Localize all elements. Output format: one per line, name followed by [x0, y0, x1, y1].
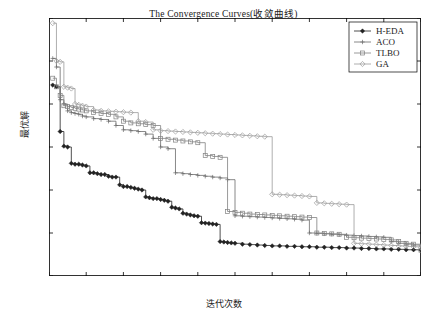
- plot-area: 0102030405060708090100500100015002000250…: [49, 18, 421, 276]
- legend-label: GA: [376, 59, 389, 69]
- legend-label: ACO: [376, 37, 396, 47]
- chart-svg: 0102030405060708090100500100015002000250…: [49, 18, 421, 276]
- series-h-eda: [51, 83, 421, 253]
- y-axis-label: 最优解: [18, 95, 31, 155]
- legend: H-EDAACOTLBOGA: [349, 22, 417, 72]
- legend-label: TLBO: [376, 48, 400, 58]
- series-tlbo: [51, 76, 421, 252]
- legend-label: H-EDA: [376, 26, 404, 36]
- chart-root: The Convergence Curves(收敛曲线) 01020304050…: [0, 0, 447, 322]
- series-aco: [51, 56, 421, 248]
- x-axis-label: 迭代次数: [0, 297, 447, 310]
